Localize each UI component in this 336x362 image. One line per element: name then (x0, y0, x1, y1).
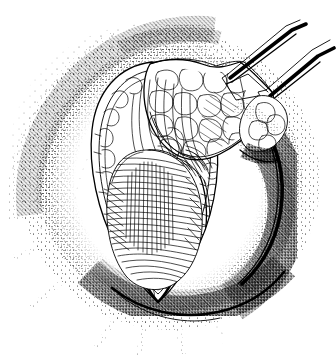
surgical-illustration-figure: Surgical exposure of subareolar lesion t… (0, 0, 336, 362)
